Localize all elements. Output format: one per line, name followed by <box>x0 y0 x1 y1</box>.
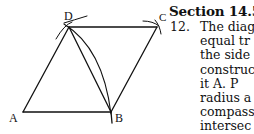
problem-text: 12.The diag equal tr the side construc i… <box>170 20 254 134</box>
geometry-diagram <box>0 0 170 134</box>
diagonal-db <box>69 27 111 112</box>
section-heading: Section 14.5 <box>169 3 254 19</box>
problem-line: it A. P <box>170 77 254 91</box>
label-a: A <box>9 112 18 124</box>
problem-line: 12.The diag <box>170 20 254 34</box>
label-b: B <box>115 112 123 124</box>
problem-line: intersec <box>170 119 254 133</box>
problem-line: the side <box>170 48 254 62</box>
problem-line: construc <box>170 63 254 77</box>
problem-line: compass <box>170 105 254 119</box>
segment-ad <box>23 27 69 112</box>
problem-line: equal tr <box>170 34 254 48</box>
problem-line: radius a <box>170 91 254 105</box>
arc-d-to-b <box>64 24 111 114</box>
problem-number: 12. <box>170 20 200 34</box>
label-d: D <box>64 10 73 22</box>
rhombus-construction-figure: D C A B <box>0 0 170 134</box>
label-c: C <box>159 11 166 23</box>
segment-bc <box>111 27 157 112</box>
